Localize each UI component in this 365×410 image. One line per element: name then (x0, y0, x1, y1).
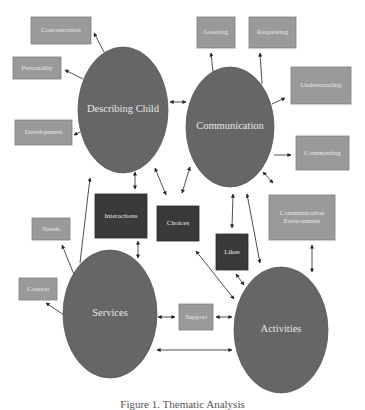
box-node-development: Development (15, 120, 72, 145)
box-label-personality: Personality (21, 64, 53, 72)
arrow-describing-child-to-personality (65, 70, 83, 79)
ellipse-node-activities: Activities (234, 267, 328, 393)
box-label-understanding: Understanding (300, 81, 342, 89)
arrow-describing-child-to-development (74, 132, 80, 135)
box-label-context: Context (27, 285, 49, 293)
ellipse-label-describing-child: Describing Child (87, 103, 160, 114)
figure-caption: Figure 1. Thematic Analysis (0, 398, 365, 410)
arrow-communication-to-communication-environment (263, 172, 273, 183)
box-label-commenting: Commenting (304, 149, 341, 157)
box-label-interactions: Interactions (104, 212, 137, 220)
arrow-communication-to-requesting (260, 53, 262, 84)
arrow-likes-to-activities (236, 274, 244, 285)
arrow-describing-child-to-choices (155, 168, 166, 195)
box-node-greeting: Greeting (197, 17, 235, 48)
box-node-needs: Needs (32, 218, 70, 240)
arrow-services-to-context (46, 303, 64, 315)
box-node-likes: Likes (216, 234, 248, 270)
box-node-commenting: Commenting (296, 136, 349, 170)
box-label-communication-environment: Communication (279, 209, 325, 217)
ellipse-node-services: Services (63, 250, 157, 378)
arrow-communication-to-greeting (211, 53, 213, 72)
box-label-choices: Choices (167, 219, 190, 227)
box-label-development: Development (25, 128, 63, 136)
box-node-personality: Personality (13, 57, 61, 79)
arrow-services-to-describing-child (80, 178, 90, 263)
arrow-communication-to-activities (247, 194, 260, 263)
box-label-support: Support (185, 313, 207, 321)
box-node-concentration: Concentration (31, 17, 91, 44)
arrow-services-to-needs (62, 245, 75, 277)
box-label-concentration: Concentration (41, 26, 81, 34)
ellipse-node-describing-child: Describing Child (78, 47, 168, 173)
box-node-interactions: Interactions (95, 194, 147, 238)
box-node-support: Support (179, 304, 213, 330)
ellipse-label-activities: Activities (261, 323, 302, 334)
arrow-communication-to-understanding (272, 98, 285, 104)
box-label-likes: Likes (224, 248, 240, 256)
ellipse-node-communication: Communication (186, 67, 274, 187)
box-node-choices: Choices (157, 206, 199, 241)
box-node-context: Context (19, 278, 57, 300)
ellipse-label-communication: Communication (196, 120, 264, 131)
box-label-communication-environment: Environment (284, 217, 321, 225)
ellipse-label-services: Services (92, 307, 128, 318)
box-label-requesting: Requesting (257, 28, 289, 36)
box-label-needs: Needs (42, 225, 60, 233)
arrow-communication-to-choices (182, 167, 190, 193)
box-node-requesting: Requesting (249, 17, 296, 48)
box-label-greeting: Greeting (204, 28, 229, 36)
arrow-describing-child-to-concentration (94, 33, 104, 52)
box-node-understanding: Understanding (291, 67, 351, 104)
box-node-communication-environment: CommunicationEnvironment (269, 195, 335, 240)
arrow-communication-to-likes (232, 194, 233, 228)
